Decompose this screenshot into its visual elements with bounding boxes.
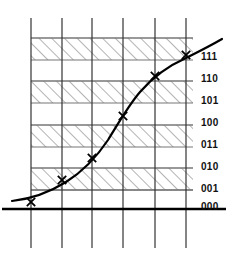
band-011 <box>31 125 193 147</box>
quantization-bands <box>31 38 193 190</box>
quantization-diagram <box>0 0 238 256</box>
band-001 <box>31 168 193 190</box>
band-101 <box>31 81 193 103</box>
band-111 <box>31 38 193 60</box>
